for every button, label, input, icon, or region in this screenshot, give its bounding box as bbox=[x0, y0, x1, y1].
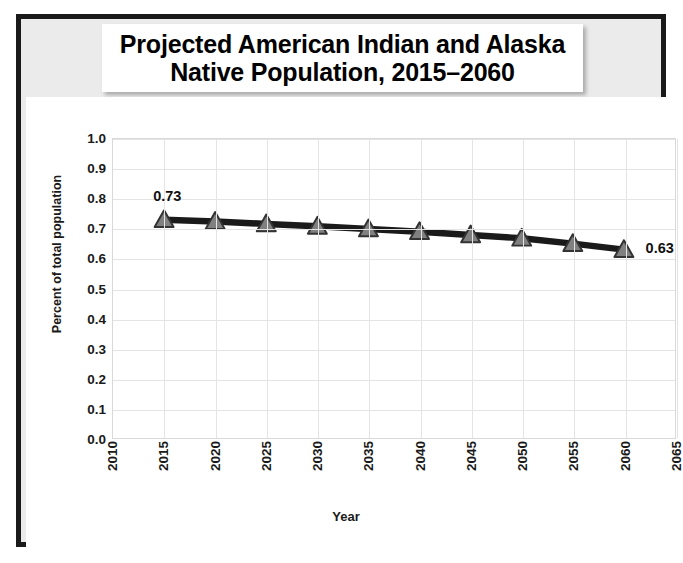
data-point-label: 0.63 bbox=[646, 240, 674, 256]
y-tick-label: 0.8 bbox=[72, 191, 106, 206]
plot-area: 0.730.63 bbox=[112, 138, 676, 439]
y-tick-label: 0.2 bbox=[72, 371, 106, 386]
gridline-vertical bbox=[318, 139, 319, 438]
x-tick-label: 2025 bbox=[258, 441, 273, 471]
data-point-label: 0.73 bbox=[153, 188, 181, 204]
gridline-horizontal bbox=[113, 229, 675, 230]
x-tick-label: 2045 bbox=[463, 441, 478, 471]
gridline-vertical bbox=[421, 139, 422, 438]
x-tick-label: 2050 bbox=[515, 441, 530, 471]
x-axis-title: Year bbox=[26, 509, 666, 524]
x-tick-label: 2015 bbox=[156, 441, 171, 471]
gridline-vertical bbox=[472, 139, 473, 438]
gridline-horizontal bbox=[113, 139, 675, 140]
series-line bbox=[113, 139, 675, 438]
gridline-horizontal bbox=[113, 350, 675, 351]
x-tick-label: 2010 bbox=[105, 441, 120, 471]
x-tick-label: 2030 bbox=[310, 441, 325, 471]
x-tick-label: 2055 bbox=[566, 441, 581, 471]
gridline-vertical bbox=[216, 139, 217, 438]
y-tick-label: 0.0 bbox=[72, 432, 106, 447]
y-tick-label: 0.7 bbox=[72, 221, 106, 236]
x-axis-tick-labels: 2010201520202025203020352040204520502055… bbox=[112, 441, 676, 503]
gridline-vertical bbox=[626, 139, 627, 438]
chart-canvas: Percent of total population 0.00.10.20.3… bbox=[26, 97, 666, 547]
gridline-horizontal bbox=[113, 199, 675, 200]
y-axis-tick-labels: 0.00.10.20.30.40.50.60.70.80.91.0 bbox=[66, 138, 106, 439]
gridline-vertical bbox=[574, 139, 575, 438]
x-tick-label: 2040 bbox=[412, 441, 427, 471]
y-tick-label: 0.1 bbox=[72, 401, 106, 416]
y-tick-label: 1.0 bbox=[72, 131, 106, 146]
gridline-vertical bbox=[164, 139, 165, 438]
y-tick-label: 0.6 bbox=[72, 251, 106, 266]
gridline-horizontal bbox=[113, 380, 675, 381]
series-polyline bbox=[164, 220, 624, 250]
gridline-horizontal bbox=[113, 259, 675, 260]
gridline-vertical bbox=[523, 139, 524, 438]
y-tick-label: 0.5 bbox=[72, 281, 106, 296]
y-axis-title: Percent of total population bbox=[50, 149, 64, 359]
gridline-vertical bbox=[369, 139, 370, 438]
gridline-vertical bbox=[677, 139, 678, 438]
x-tick-label: 2020 bbox=[207, 441, 222, 471]
y-tick-label: 0.4 bbox=[72, 311, 106, 326]
gridline-horizontal bbox=[113, 320, 675, 321]
chart-title: Projected American Indian and Alaska Nat… bbox=[120, 30, 565, 86]
x-tick-label: 2060 bbox=[617, 441, 632, 471]
gridline-horizontal bbox=[113, 410, 675, 411]
gridline-vertical bbox=[267, 139, 268, 438]
x-tick-label: 2035 bbox=[361, 441, 376, 471]
y-tick-label: 0.9 bbox=[72, 161, 106, 176]
gridline-horizontal bbox=[113, 169, 675, 170]
x-tick-label: 2065 bbox=[669, 441, 683, 471]
y-tick-label: 0.3 bbox=[72, 341, 106, 356]
gridline-horizontal bbox=[113, 290, 675, 291]
title-plate: Projected American Indian and Alaska Nat… bbox=[102, 24, 583, 92]
slide-frame: Projected American Indian and Alaska Nat… bbox=[16, 14, 666, 547]
